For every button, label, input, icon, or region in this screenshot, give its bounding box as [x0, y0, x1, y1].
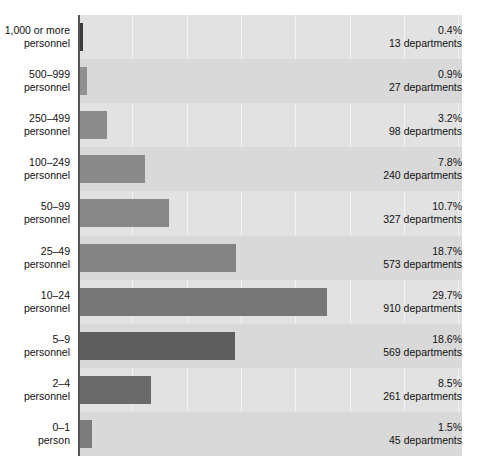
chart-row[interactable]: 1,000 or morepersonnel0.4%13 departments	[0, 15, 479, 59]
value-percent: 1.5%	[438, 421, 462, 434]
category-label-line1: 10–24	[41, 289, 70, 302]
category-label-line1: 1,000 or more	[5, 24, 70, 37]
category-label-line1: 2–4	[52, 377, 70, 390]
category-label: 25–49personnel	[0, 236, 70, 280]
category-label: 10–24personnel	[0, 280, 70, 324]
category-label-line2: personnel	[24, 125, 70, 138]
chart-row[interactable]: 2–4personnel8.5%261 departments	[0, 368, 479, 412]
value-label-group: 1.5%45 departments	[389, 412, 462, 456]
chart-row[interactable]: 250–499personnel3.2%98 departments	[0, 103, 479, 147]
category-label-line2: personnel	[24, 258, 70, 271]
category-label-line2: personnel	[24, 390, 70, 403]
value-count: 98 departments	[389, 125, 462, 138]
category-label: 2–4personnel	[0, 368, 70, 412]
value-percent: 3.2%	[438, 112, 462, 125]
category-label: 50–99personnel	[0, 191, 70, 235]
category-label: 250–499personnel	[0, 103, 70, 147]
chart-row[interactable]: 500–999personnel0.9%27 departments	[0, 59, 479, 103]
value-count: 569 departments	[383, 346, 462, 359]
value-count: 13 departments	[389, 37, 462, 50]
value-percent: 0.4%	[438, 24, 462, 37]
category-label-line2: personnel	[24, 213, 70, 226]
value-count: 261 departments	[383, 390, 462, 403]
bar[interactable]	[80, 199, 169, 227]
category-label: 100–249personnel	[0, 147, 70, 191]
bar[interactable]	[80, 111, 107, 139]
value-label-group: 8.5%261 departments	[383, 368, 462, 412]
value-label-group: 7.8%240 departments	[383, 147, 462, 191]
value-label-group: 18.7%573 departments	[383, 236, 462, 280]
value-percent: 10.7%	[432, 200, 462, 213]
category-label: 500–999personnel	[0, 59, 70, 103]
value-count: 910 departments	[383, 302, 462, 315]
category-label-line1: 500–999	[29, 68, 70, 81]
category-label-line1: 250–499	[29, 112, 70, 125]
value-count: 27 departments	[389, 81, 462, 94]
value-label-group: 29.7%910 departments	[383, 280, 462, 324]
bar[interactable]	[80, 155, 145, 183]
bar[interactable]	[80, 376, 151, 404]
bar-chart: 1,000 or morepersonnel0.4%13 departments…	[0, 0, 479, 474]
category-label-line1: 25–49	[41, 245, 70, 258]
value-label-group: 18.6%569 departments	[383, 324, 462, 368]
value-label-group: 0.9%27 departments	[389, 59, 462, 103]
value-percent: 8.5%	[438, 377, 462, 390]
value-count: 45 departments	[389, 434, 462, 447]
category-label-line2: personnel	[24, 81, 70, 94]
category-label: 0–1person	[0, 412, 70, 456]
chart-row[interactable]: 0–1person1.5%45 departments	[0, 412, 479, 456]
value-percent: 7.8%	[438, 156, 462, 169]
value-count: 240 departments	[383, 169, 462, 182]
category-label: 5–9personnel	[0, 324, 70, 368]
category-label-line2: personnel	[24, 302, 70, 315]
value-label-group: 3.2%98 departments	[389, 103, 462, 147]
bar[interactable]	[80, 67, 87, 95]
value-percent: 0.9%	[438, 68, 462, 81]
chart-row[interactable]: 50–99personnel10.7%327 departments	[0, 191, 479, 235]
category-label-line1: 50–99	[41, 200, 70, 213]
value-count: 327 departments	[383, 213, 462, 226]
value-count: 573 departments	[383, 258, 462, 271]
value-label-group: 10.7%327 departments	[383, 191, 462, 235]
category-label-line1: 0–1	[52, 421, 70, 434]
value-percent: 18.6%	[432, 333, 462, 346]
category-label-line2: personnel	[24, 37, 70, 50]
chart-row[interactable]: 10–24personnel29.7%910 departments	[0, 280, 479, 324]
category-label-line1: 5–9	[52, 333, 70, 346]
category-label-line2: person	[38, 434, 70, 447]
chart-row[interactable]: 5–9personnel18.6%569 departments	[0, 324, 479, 368]
category-label-line1: 100–249	[29, 156, 70, 169]
bar[interactable]	[80, 288, 327, 316]
bar[interactable]	[80, 420, 92, 448]
chart-row[interactable]: 25–49personnel18.7%573 departments	[0, 236, 479, 280]
value-label-group: 0.4%13 departments	[389, 15, 462, 59]
value-percent: 18.7%	[432, 245, 462, 258]
y-axis-spine	[78, 15, 80, 456]
bar[interactable]	[80, 332, 235, 360]
bar[interactable]	[80, 244, 236, 272]
category-label-line2: personnel	[24, 169, 70, 182]
chart-row[interactable]: 100–249personnel7.8%240 departments	[0, 147, 479, 191]
category-label: 1,000 or morepersonnel	[0, 15, 70, 59]
category-label-line2: personnel	[24, 346, 70, 359]
value-percent: 29.7%	[432, 289, 462, 302]
bar[interactable]	[80, 23, 83, 51]
